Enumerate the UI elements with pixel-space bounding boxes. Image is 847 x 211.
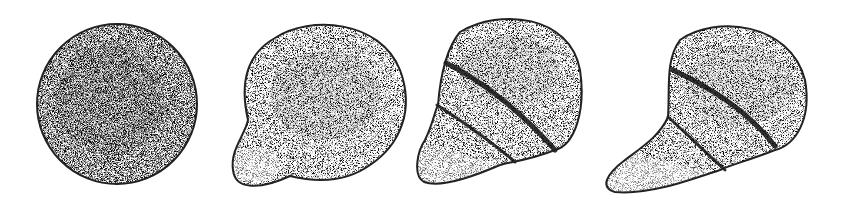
cell-stage-4 (600, 10, 815, 200)
cell-stage-3 (410, 5, 590, 200)
figure-stage (0, 0, 847, 211)
cell-stage-1 (30, 20, 210, 190)
cell-stage-2 (225, 15, 415, 195)
